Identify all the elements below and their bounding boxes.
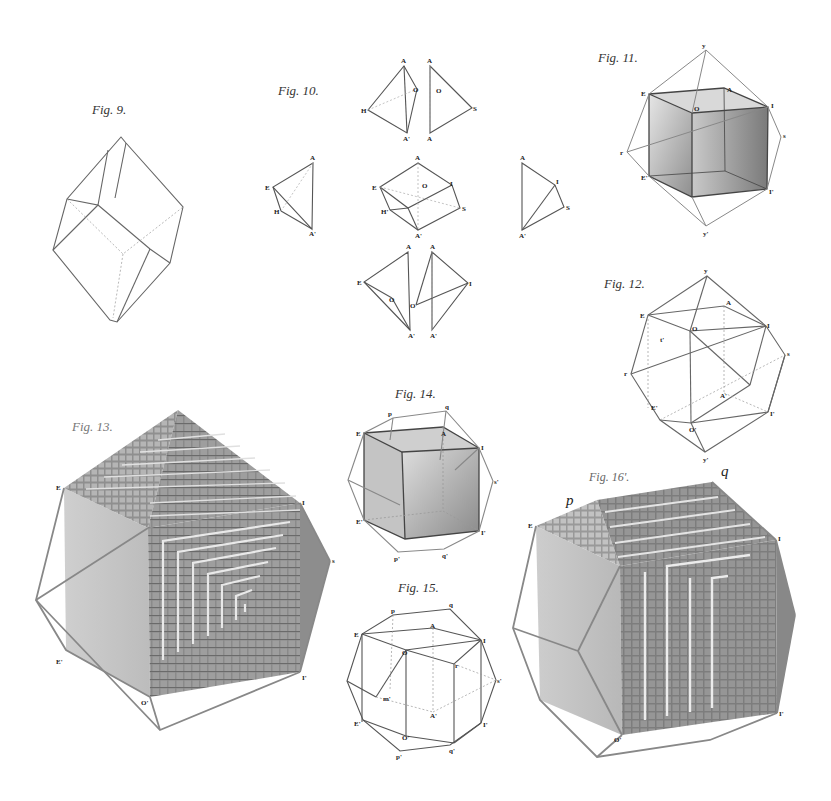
- fig16-diagram: EI O'I': [0, 0, 831, 801]
- svg-text:E: E: [528, 522, 533, 530]
- svg-text:I: I: [778, 535, 781, 543]
- crystallography-plate: Fig. 9. Fig. 10.: [0, 0, 831, 801]
- svg-text:I': I': [779, 710, 784, 718]
- svg-text:O': O': [614, 736, 621, 744]
